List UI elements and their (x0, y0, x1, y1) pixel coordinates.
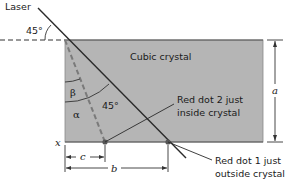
incident-angle-arc (45, 25, 51, 40)
internal-angle-label: 45° (102, 100, 119, 111)
dot2-callout-line1: Red dot 2 just (177, 94, 243, 105)
diagram-canvas: Laser 45° Cubic crystal β α 45° a x c b … (0, 0, 290, 185)
dot1-callout-line2: outside crystal (215, 168, 285, 179)
dim-b-arrow-left-icon (66, 166, 71, 170)
incident-angle-label: 45° (26, 25, 43, 36)
dim-c-arrow-right-icon (99, 155, 104, 159)
alpha-label: α (73, 109, 80, 120)
dot1-leader (168, 142, 212, 160)
crystal-label: Cubic crystal (130, 51, 191, 62)
laser-label: Laser (5, 1, 31, 12)
dot2-callout-line2: inside crystal (177, 107, 240, 118)
dim-a-arrow-down-icon (273, 135, 277, 141)
beta-label: β (70, 87, 76, 98)
dim-b-arrow-right-icon (162, 166, 167, 170)
dim-b-label: b (111, 163, 117, 174)
dim-a-label: a (272, 85, 278, 96)
dim-c-label: c (80, 151, 86, 162)
dim-x-label: x (55, 137, 61, 148)
dim-c-arrow-left-icon (66, 155, 71, 159)
dot1-callout-line1: Red dot 1 just (215, 155, 281, 166)
dim-a-arrow-up-icon (273, 41, 277, 47)
